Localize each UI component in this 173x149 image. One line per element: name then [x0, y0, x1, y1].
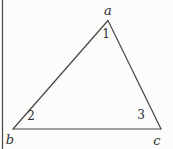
vertex-label-b: b: [6, 133, 14, 146]
angle-label-2: 2: [27, 110, 35, 122]
vertex-label-c: c: [153, 134, 160, 147]
angle-label-3: 3: [137, 109, 145, 121]
triangle-figure: a b c 1 2 3: [0, 0, 173, 149]
vertex-label-a: a: [104, 4, 112, 17]
angle-label-1: 1: [102, 28, 110, 40]
triangle-drawing: [0, 0, 173, 149]
